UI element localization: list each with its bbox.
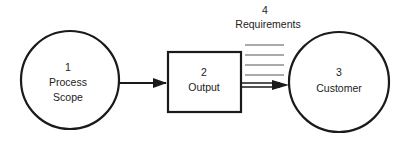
requirements-group: 4 Requirements: [235, 4, 300, 75]
process-scope-label-line1: Process: [49, 76, 87, 88]
customer-label: Customer: [316, 82, 362, 94]
process-scope-number: 1: [65, 61, 71, 73]
edge-output-to-customer: [242, 80, 289, 90]
arrowhead-customer: [272, 80, 289, 90]
node-output[interactable]: 2 Output: [168, 52, 241, 112]
customer-number: 3: [336, 66, 342, 78]
requirements-number: 4: [262, 4, 268, 16]
output-label: Output: [188, 81, 220, 93]
node-customer[interactable]: 3 Customer: [289, 32, 389, 132]
process-scope-label-line2: Scope: [53, 91, 83, 103]
diagram-canvas: 1 Process Scope 2 Output 4 Requirements …: [0, 0, 409, 145]
requirements-label: Requirements: [235, 18, 300, 30]
output-number: 2: [201, 66, 207, 78]
node-process-scope[interactable]: 1 Process Scope: [21, 31, 119, 129]
